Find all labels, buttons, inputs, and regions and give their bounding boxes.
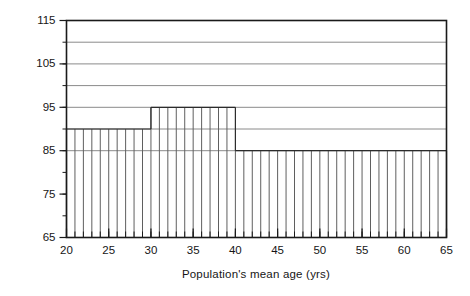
x-tick-label-60: 60 [389,244,419,256]
x-tick-label-65: 65 [432,244,462,256]
chart-figure: TWA (dB) Population's mean age (yrs) 657… [0,0,470,296]
bars [67,107,439,237]
x-tick-label-40: 40 [220,244,250,256]
y-tick-label-75: 75 [26,188,56,200]
x-tick-label-50: 50 [305,244,335,256]
y-tick-label-95: 95 [26,101,56,113]
x-tick-label-30: 30 [136,244,166,256]
y-tick-label-105: 105 [26,57,56,69]
x-axis-title: Population's mean age (yrs) [66,268,446,280]
y-tick-label-65: 65 [26,231,56,243]
x-tick-label-45: 45 [263,244,293,256]
x-tick-label-20: 20 [52,244,82,256]
y-tick-label-85: 85 [26,144,56,156]
step-outline [67,107,447,237]
x-tick-label-55: 55 [347,244,377,256]
gridlines [67,42,447,151]
x-tick-label-25: 25 [94,244,124,256]
y-tick-label-115: 115 [26,14,56,26]
x-tick-label-35: 35 [178,244,208,256]
